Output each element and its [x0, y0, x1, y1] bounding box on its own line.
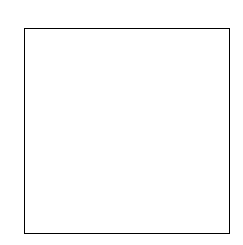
heatmap-plot-area — [24, 28, 230, 234]
